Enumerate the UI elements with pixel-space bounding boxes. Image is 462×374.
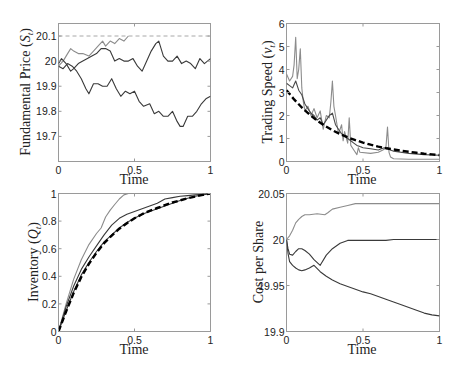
series-optimal-speed [287,90,440,155]
y-tick-label: 19.8 [36,105,57,117]
y-tick-label: 20.1 [36,30,57,42]
panel-trading-speed: 00.510123456 Time Trading Speed (νt) [260,18,443,188]
series-cost-mid [287,240,440,266]
x-tick-label: 1 [208,164,214,176]
y-axis-symbol: Q [26,229,41,239]
series-cost-high [287,204,440,240]
curves [59,194,211,332]
series-cost-low [287,240,440,316]
y-axis-label-main: Fundamental Price [18,47,33,156]
y-axis-label: Inventory (Qt) [26,222,43,302]
y-tick-label: 20 [273,234,285,246]
y-axis-label: Fundamental Price (St) [18,28,35,156]
x-tick-label: 1 [437,334,443,346]
y-axis-symbol: S [18,35,33,42]
curves [59,36,211,126]
panel-fundamental-price: 00.5119.719.819.92020.1 Time Fundamental… [18,24,214,188]
curves [287,37,440,159]
x-axis-label: Time [119,342,148,357]
series-path-low [59,64,211,127]
x-axis-label: Time [347,172,376,187]
ticks: 00.5119.719.819.92020.1 [36,24,214,176]
y-tick-label: 0.6 [42,243,57,255]
series-path-mid [59,194,211,332]
y-tick-label: 20.05 [258,188,284,200]
y-axis-label: Trading Speed (νt) [260,40,277,143]
y-tick-label: 0 [279,156,285,168]
y-tick-label: 3 [279,87,285,99]
series-path-hits-barrier [59,36,129,66]
y-tick-label: 0 [51,326,57,338]
y-tick-label: 1 [51,188,57,200]
paren-close: ) [260,40,276,45]
y-tick-label: 1 [279,133,285,145]
y-tick-label: 0.2 [42,298,57,310]
x-tick-label: 1 [437,164,443,176]
series-path-dark [287,81,440,155]
y-axis-label: Cost per Share [251,221,266,303]
y-tick-label: 19.9 [36,80,57,92]
y-tick-label: 6 [279,18,285,30]
axes-frame [59,194,211,332]
series-optimal-inventory [59,194,211,332]
y-tick-label: 4 [279,64,285,76]
y-tick-label: 19.7 [36,130,57,142]
y-tick-label: 5 [279,41,285,53]
ticks: 00.5119.919.952020.05 [258,188,442,346]
figure: 00.5119.719.819.92020.1 Time Fundamental… [0,0,462,374]
y-tick-label: 2 [279,110,285,122]
series-path-mid [59,41,211,71]
x-axis-label: Time [119,172,148,187]
x-axis-label: Time [347,342,376,357]
series-path-fast [59,194,211,332]
ticks: 00.5100.20.40.60.81 [42,188,214,346]
y-axis-label-main: Inventory [26,244,41,302]
x-tick-label: 0 [56,164,62,176]
paren-close: ) [18,28,34,33]
y-axis-label-main: Trading Speed [260,59,275,144]
axes-frame [287,24,440,162]
y-tick-label: 20 [45,55,57,67]
series-path-light [287,37,440,159]
paren-close: ) [26,222,42,227]
series-path-near-optimal [59,194,211,332]
y-tick-label: 0.4 [42,270,57,282]
y-tick-label: 19.9 [264,326,285,338]
x-tick-label: 1 [208,334,214,346]
y-tick-label: 0.8 [42,215,57,227]
panel-cost-per-share: 00.5119.919.952020.05 Time Cost per Shar… [251,188,443,358]
curves [287,204,440,316]
panel-inventory: 00.5100.20.40.60.81 Time Inventory (Qt) [26,188,214,358]
